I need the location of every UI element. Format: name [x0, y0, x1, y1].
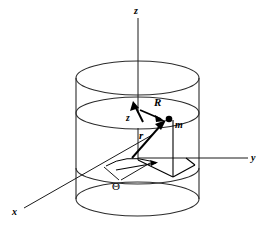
x-axis-label: x — [11, 206, 17, 217]
theta-angle-group: Θ — [104, 158, 150, 192]
y-foot-connector-line — [186, 158, 195, 165]
x-axis-line — [24, 135, 152, 208]
axes-group — [24, 18, 248, 208]
z-height-label: z — [125, 113, 130, 123]
diagram-canvas: Θ z R r m z y x — [0, 0, 266, 237]
r-vector-line — [132, 125, 161, 158]
point-m-marker — [166, 116, 173, 123]
z-axis-label: z — [133, 5, 138, 16]
cylinder-bottom-rim — [76, 182, 199, 216]
point-m-label: m — [175, 119, 183, 130]
vectors-group: z R r m — [125, 96, 183, 158]
theta-leader-line-left — [104, 167, 119, 180]
r-vector-label: r — [139, 129, 144, 141]
y-axis-label: y — [250, 152, 256, 163]
theta-leader-line-right — [121, 163, 150, 180]
cylindrical-coordinate-diagram: Θ z R r m z y x — [0, 0, 266, 237]
R-vector-label: R — [153, 96, 161, 108]
radial-projection-arrow-line — [116, 163, 156, 170]
axis-labels-group: z y x — [11, 5, 256, 217]
theta-angle-label: Θ — [112, 180, 120, 192]
radial-projection-arrow-head — [150, 160, 158, 166]
